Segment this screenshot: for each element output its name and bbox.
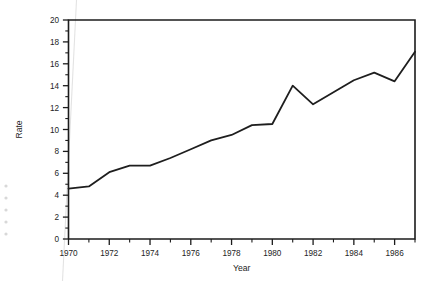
x-axis: 197019721974197619781980198219841986 [59,239,415,258]
x-tick-label-1982: 1982 [304,249,323,258]
x-tick-label-1978: 1978 [222,249,241,258]
y-tick-label-6: 6 [54,169,59,178]
x-tick-label-1984: 1984 [345,249,364,258]
y-tick-label-16: 16 [50,60,60,69]
scan-artifact-speck-1 [4,196,7,199]
scan-artifact-speck-4 [4,232,7,235]
scan-artifact-speck-3 [4,220,7,223]
y-tick-label-10: 10 [50,126,60,135]
x-tick-label-1986: 1986 [386,249,405,258]
x-tick-label-1976: 1976 [182,249,201,258]
y-tick-label-4: 4 [54,191,59,200]
y-tick-label-14: 14 [50,82,60,91]
y-tick-label-2: 2 [54,213,59,222]
x-axis-title: Year [233,263,251,273]
scan-artifact-speck-2 [4,208,7,211]
scan-artifact-speck-0 [4,184,7,187]
x-tick-label-1970: 1970 [59,249,78,258]
y-tick-label-12: 12 [50,104,60,113]
y-tick-label-8: 8 [54,147,59,156]
y-tick-label-20: 20 [50,16,60,25]
data-series-rate [69,52,416,189]
y-tick-label-18: 18 [50,38,60,47]
y-tick-label-0: 0 [54,235,59,244]
y-axis-title: Rate [14,120,24,138]
x-tick-label-1974: 1974 [141,249,160,258]
chart-figure: 0246810121416182019701972197419761978198… [0,0,433,281]
x-tick-label-1980: 1980 [263,249,282,258]
x-tick-label-1972: 1972 [100,249,119,258]
